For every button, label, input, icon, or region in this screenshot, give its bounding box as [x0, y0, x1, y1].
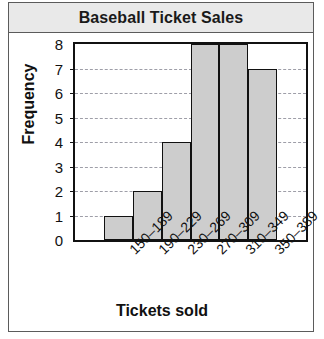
- bar[interactable]: [104, 216, 133, 241]
- y-tick-label: 2: [37, 183, 63, 200]
- y-tick-label: 4: [37, 134, 63, 151]
- y-tick-label: 8: [37, 36, 63, 53]
- bar-slot: [133, 44, 162, 240]
- bar-slot: [75, 44, 104, 240]
- y-tick-label: 5: [37, 109, 63, 126]
- y-tick-label: 3: [37, 158, 63, 175]
- y-tick-label: 1: [37, 207, 63, 224]
- bar-slot: [104, 44, 133, 240]
- chart-title-bar: Baseball Ticket Sales: [9, 3, 313, 33]
- x-axis-label: Tickets sold: [9, 302, 315, 320]
- page-title: Baseball Ticket Sales: [79, 9, 244, 27]
- chart-body: Frequency 012345678 150–189190–229230–26…: [9, 34, 315, 332]
- chart-card: Baseball Ticket Sales Frequency 01234567…: [8, 2, 314, 332]
- y-tick-label: 6: [37, 85, 63, 102]
- y-tick-label: 7: [37, 60, 63, 77]
- y-tick-label: 0: [37, 232, 63, 249]
- x-axis-ticks: 150–189190–229230–269270–309310–349350–3…: [73, 244, 308, 306]
